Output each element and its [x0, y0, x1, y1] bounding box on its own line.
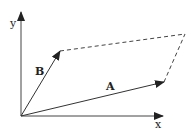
vector-b-label: B: [35, 65, 44, 78]
vector-a: [21, 82, 164, 116]
vector-b: [21, 51, 60, 116]
y-axis-label: y: [9, 17, 17, 30]
dashed-edge-right: [164, 34, 185, 82]
vector-diagram: y x B A: [0, 0, 196, 134]
x-axis-label: x: [155, 118, 162, 131]
dashed-edge-top: [60, 34, 185, 51]
vector-a-label: A: [105, 80, 115, 93]
